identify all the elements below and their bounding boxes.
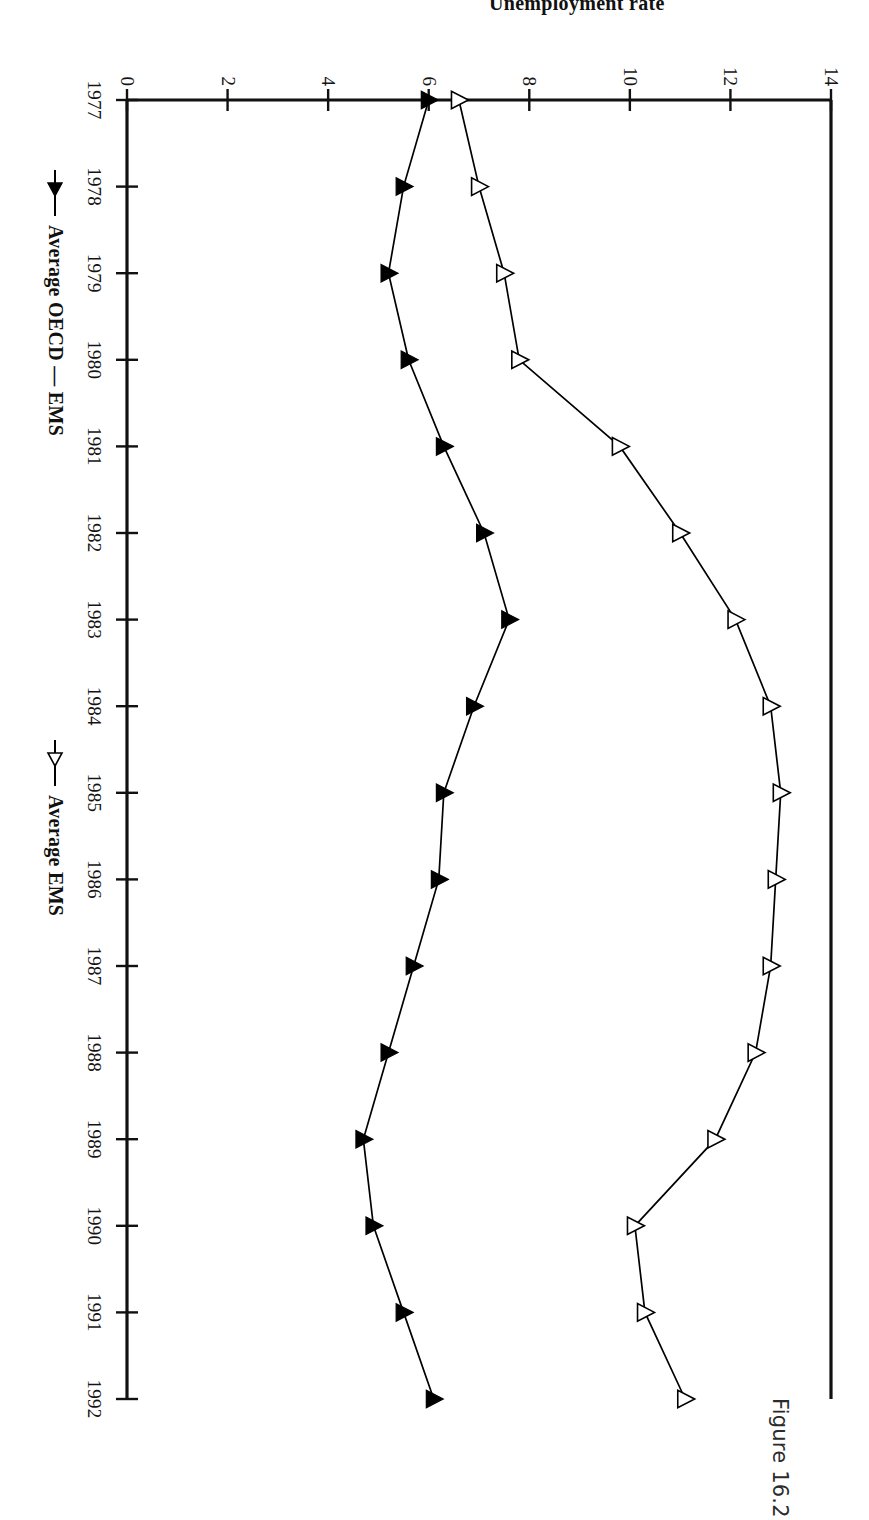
x-axis-tick-label: 1990 (83, 1206, 105, 1245)
y-axis-tick-label: 4 (317, 42, 339, 86)
x-axis-tick-label: 1992 (83, 1380, 105, 1419)
series-line-average-ems (459, 100, 781, 1399)
x-axis-tick-label: 1991 (83, 1293, 105, 1332)
legend-label: Average OECD — EMS (44, 225, 67, 436)
x-axis-tick-label: 1985 (83, 773, 105, 812)
legend-entry-average-ems: Average EMS (44, 740, 67, 916)
filled-triangle-marker (46, 170, 66, 216)
x-axis-tick-label: 1986 (83, 860, 105, 899)
open-triangle-marker (678, 1390, 695, 1407)
y-axis-tick-label: 2 (217, 42, 239, 86)
open-triangle-marker (46, 740, 66, 786)
filled-triangle-marker (467, 697, 484, 714)
x-axis-tick-label: 1984 (83, 687, 105, 726)
line-chart-svg (127, 100, 831, 1399)
axis-tick-marks (116, 89, 831, 1399)
open-triangle-marker (728, 611, 745, 628)
x-axis-tick-label: 1989 (83, 1120, 105, 1159)
filled-triangle-marker (401, 351, 418, 368)
filled-triangle-marker (436, 438, 453, 455)
chart-legend: Average OECD — EMS Average EMS (29, 100, 69, 1399)
legend-label: Average EMS (44, 795, 67, 916)
x-axis-tick-label: 1988 (83, 1033, 105, 1072)
y-axis-tick-label: 6 (418, 42, 440, 86)
filled-triangle-marker (396, 1304, 413, 1321)
x-axis-tick-label: 1977 (83, 81, 105, 120)
filled-triangle-marker (502, 611, 519, 628)
data-series-group (356, 91, 790, 1407)
y-axis-tick-label: 10 (619, 42, 641, 86)
y-axis-tick-label: 14 (820, 42, 842, 86)
x-axis-tick-label: 1981 (83, 427, 105, 466)
open-triangle-marker (638, 1304, 655, 1321)
y-axis-tick-label: 12 (719, 42, 741, 86)
x-axis-tick-label: 1980 (83, 340, 105, 379)
y-axis-tick-label: 0 (116, 42, 138, 86)
x-axis-tick-label: 1987 (83, 947, 105, 986)
open-triangle-marker (612, 438, 629, 455)
filled-triangle-marker (426, 1390, 443, 1407)
x-axis-tick-label: 1983 (83, 600, 105, 639)
legend-entry-average-oecd-ems: Average OECD — EMS (44, 170, 67, 436)
x-axis-tick-label: 1982 (83, 514, 105, 553)
x-axis-tick-label: 1979 (83, 254, 105, 293)
filled-triangle-marker (366, 1217, 383, 1234)
series-line-average-oecd-ems (363, 100, 509, 1399)
y-axis-title: Unemployment rate (489, 0, 665, 15)
filled-triangle-marker (436, 784, 453, 801)
figure-caption: Figure 16.2 (768, 1398, 792, 1520)
y-axis-tick-label: 8 (518, 42, 540, 86)
x-axis-tick-label: 1978 (83, 167, 105, 206)
plot-area: 1977197819791980198119821983198419851986… (127, 100, 831, 1399)
open-triangle-marker (708, 1130, 725, 1147)
open-triangle-marker (673, 524, 690, 541)
open-triangle-marker (773, 784, 790, 801)
